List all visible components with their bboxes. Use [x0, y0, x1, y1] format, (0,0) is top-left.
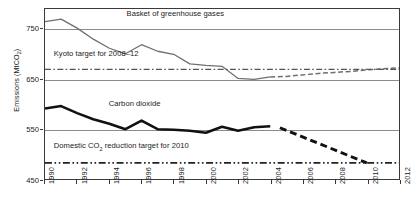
x-tick-label: 1992 — [80, 167, 89, 184]
x-tick-label: 2006 — [306, 167, 315, 184]
x-tick-label: 2000 — [209, 167, 218, 184]
chart-annotation: Domestic CO2 reduction target for 2010 — [54, 141, 189, 152]
x-tick-mark — [238, 180, 239, 184]
x-tick-mark — [271, 180, 272, 184]
x-tick-mark — [173, 180, 174, 184]
x-tick-mark — [400, 180, 401, 184]
emissions-chart: Emissions (MtCO2) 4505506507501990199219… — [0, 0, 413, 211]
y-tick-mark — [40, 28, 43, 29]
y-tick-mark — [40, 129, 43, 130]
chart-annotation: Basket of greenhouse gases — [127, 9, 225, 18]
x-tick-label: 1998 — [177, 167, 186, 184]
x-tick-label: 1994 — [112, 167, 121, 184]
y-tick-label: 550 — [13, 125, 39, 134]
series-dashed-thick — [280, 128, 367, 163]
x-tick-label: 2004 — [274, 167, 283, 184]
x-tick-label: 2012 — [403, 167, 412, 184]
x-tick-label: 2010 — [371, 167, 380, 184]
plot-area — [44, 8, 400, 180]
y-tick-mark — [40, 180, 43, 181]
y-tick-label: 650 — [13, 74, 39, 83]
y-tick-mark — [40, 79, 43, 80]
chart-annotation: Kyoto target for 2008–12 — [54, 49, 139, 58]
y-tick-label: 450 — [13, 176, 39, 185]
plot-layers — [45, 9, 399, 179]
x-tick-mark — [335, 180, 336, 184]
y-tick-label: 750 — [13, 24, 39, 33]
x-tick-mark — [368, 180, 369, 184]
x-tick-mark — [206, 180, 207, 184]
x-tick-label: 1996 — [144, 167, 153, 184]
series-solid-thick — [45, 106, 270, 133]
x-tick-mark — [109, 180, 110, 184]
x-tick-mark — [141, 180, 142, 184]
x-tick-mark — [44, 180, 45, 184]
x-tick-label: 2002 — [241, 167, 250, 184]
x-tick-mark — [76, 180, 77, 184]
chart-annotation: Carbon dioxide — [109, 99, 161, 108]
x-tick-label: 2008 — [338, 167, 347, 184]
series-lines — [45, 9, 399, 179]
x-tick-mark — [303, 180, 304, 184]
x-tick-label: 1990 — [47, 167, 56, 184]
